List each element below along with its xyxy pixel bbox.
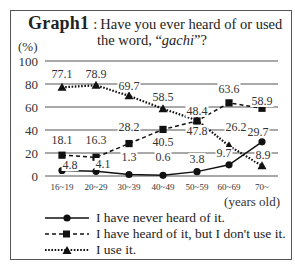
data-label: 48.4 (187, 104, 208, 118)
legend-item-use-it: I use it. (44, 242, 286, 258)
data-label: 26.2 (226, 120, 247, 134)
data-point (125, 140, 132, 147)
x-tick-label: 50~59 (186, 182, 209, 192)
data-label: 9.7 (217, 146, 232, 160)
data-label: 4.1 (96, 157, 111, 171)
data-point (92, 81, 101, 89)
data-point (159, 172, 166, 179)
y-tick-label: 40 (25, 123, 38, 138)
y-tick-label: 20 (25, 146, 38, 161)
y-tick-label: 100 (19, 54, 39, 69)
legend-label: I have never heard of it. (96, 210, 225, 226)
data-label: 58.5 (153, 90, 174, 104)
data-label: 4.8 (63, 158, 78, 172)
data-label: 16.3 (86, 133, 107, 147)
data-label: 8.9 (256, 148, 271, 162)
legend-item-never-heard: I have never heard of it. (44, 210, 286, 226)
dashed-square-marker-icon (44, 229, 90, 239)
dotted-triangle-marker-icon (44, 245, 90, 255)
data-label: 18.1 (52, 133, 73, 147)
y-tick-label: 60 (25, 100, 38, 115)
data-label: 77.1 (52, 67, 73, 81)
y-tick-label: 0 (32, 169, 39, 184)
data-point (159, 104, 168, 112)
data-label: 29.7 (248, 125, 269, 139)
y-tick-label: 80 (25, 77, 38, 92)
data-point (225, 99, 232, 106)
data-point (193, 168, 200, 175)
data-label: 0.6 (156, 150, 171, 164)
data-point (125, 171, 132, 178)
data-point (225, 161, 232, 168)
legend: I have never heard of it. I have heard o… (44, 210, 286, 258)
data-label: 58.9 (252, 94, 273, 108)
data-label: 3.8 (190, 152, 205, 166)
solid-circle-marker-icon (44, 213, 90, 223)
legend-item-heard-not-use: I have heard of it, but I don't use it. (44, 226, 286, 242)
x-tick-label: 16~19 (51, 182, 74, 192)
data-label: 78.9 (86, 67, 107, 81)
x-tick-label: 60~69 (218, 182, 241, 192)
data-label: 63.6 (219, 82, 240, 96)
x-tick-label: 70~ (255, 182, 269, 192)
x-tick-label: 40~49 (152, 182, 175, 192)
x-tick-label: 20~29 (85, 182, 108, 192)
data-label: 69.7 (119, 79, 140, 93)
data-label: 40.5 (153, 135, 174, 149)
data-label: 28.2 (119, 120, 140, 134)
legend-label: I have heard of it, but I don't use it. (96, 226, 286, 242)
legend-label: I use it. (96, 242, 136, 258)
data-point (258, 161, 267, 169)
x-tick-label: 30~39 (118, 182, 141, 192)
data-label: 1.3 (122, 150, 137, 164)
data-point (159, 126, 166, 133)
data-label: 47.8 (187, 124, 208, 138)
data-point (258, 138, 265, 145)
x-axis-label: (years old) (224, 194, 280, 209)
